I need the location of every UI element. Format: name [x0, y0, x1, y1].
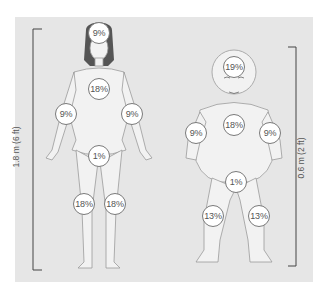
- infant-figure: [186, 50, 282, 262]
- adult-height-label: 1.8 m (6 ft): [11, 126, 21, 167]
- infant-right-arm-percentage-badge: 9%: [185, 122, 207, 144]
- infant-trunk-percentage-badge: 18%: [223, 114, 245, 136]
- infant-left-arm-percentage-badge: 9%: [259, 122, 281, 144]
- adult-right-leg-percentage-badge: 18%: [73, 193, 95, 215]
- infant-height-label: 0.6 m (2 ft): [296, 137, 306, 178]
- adult-left-arm-percentage-badge: 9%: [121, 103, 143, 125]
- infant-perineum-percentage-badge: 1%: [225, 171, 247, 193]
- adult-left-leg-percentage-badge: 18%: [104, 193, 126, 215]
- infant-right-leg-percentage-badge: 13%: [202, 205, 224, 227]
- figures-illustration: [0, 0, 323, 302]
- adult-head-percentage-badge: 9%: [88, 22, 110, 44]
- adult-scale-bracket: [33, 29, 42, 270]
- infant-head-percentage-badge: 19%: [223, 56, 245, 78]
- infant-left-leg-percentage-badge: 13%: [248, 205, 270, 227]
- adult-right-arm-percentage-badge: 9%: [55, 103, 77, 125]
- adult-perineum-percentage-badge: 1%: [88, 145, 110, 167]
- adult-trunk-percentage-badge: 18%: [88, 78, 110, 100]
